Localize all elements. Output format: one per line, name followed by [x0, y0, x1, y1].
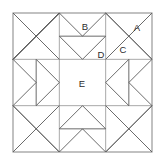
geese-top-inner-left	[59, 36, 82, 59]
geese-bottom-left-edge	[59, 129, 82, 152]
edge-geese-bottom-group	[59, 106, 105, 152]
geese-top-left-edge	[59, 13, 82, 36]
geese-left-top-edge	[13, 59, 36, 82]
label-b: B	[82, 21, 88, 32]
quilt-block-svg: A B C D E	[0, 0, 165, 166]
geese-right-top-edge	[129, 59, 152, 82]
geese-right-inner-bottom	[106, 83, 129, 106]
geese-bottom-inner-right	[83, 106, 106, 129]
geese-left-inner-bottom	[36, 83, 59, 106]
geese-right-bottom-edge	[129, 83, 152, 106]
geese-right-inner-top	[106, 59, 129, 82]
edge-geese-left-group	[13, 59, 59, 105]
geese-left-inner-top	[36, 59, 59, 82]
geese-left-bottom-edge	[13, 83, 36, 106]
geese-bottom-right-edge	[83, 129, 106, 152]
label-c: C	[120, 44, 127, 55]
edge-geese-right-group	[106, 59, 152, 105]
label-e: E	[79, 78, 85, 89]
label-a: A	[134, 22, 141, 33]
geese-bottom-inner-left	[59, 106, 82, 129]
quilt-block-figure: A B C D E	[0, 0, 165, 166]
label-d: D	[98, 49, 105, 60]
